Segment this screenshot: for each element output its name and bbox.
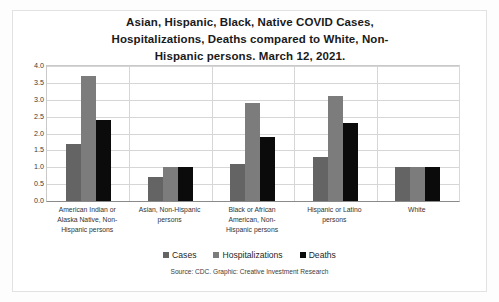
legend-swatch-icon xyxy=(213,252,219,258)
category-labels: American Indian orAlaska Native, Non-His… xyxy=(46,205,460,249)
legend-swatch-icon xyxy=(163,252,169,258)
category-label-line: Hispanic persons xyxy=(211,225,293,235)
y-axis-tick-label: 0.5 xyxy=(18,179,44,188)
chart-title-line-3: Hispanic persons. March 12, 2021. xyxy=(50,48,450,65)
category-label-line: persons xyxy=(293,215,375,225)
legend-item-hospitalizations[interactable]: Hospitalizations xyxy=(213,250,282,260)
category-label: American Indian orAlaska Native, Non-His… xyxy=(46,205,128,235)
category-label: White xyxy=(376,205,458,215)
y-axis-tick-label: 4.0 xyxy=(18,61,44,70)
category-label-line: Black or African xyxy=(211,205,293,215)
category-label: Asian, Non-Hispanicpersons xyxy=(128,205,210,225)
category-label-line: persons xyxy=(128,215,210,225)
legend-swatch-icon xyxy=(300,252,306,258)
y-axis-tick-label: 3.5 xyxy=(18,77,44,86)
legend-label: Deaths xyxy=(309,250,336,260)
legend-item-cases[interactable]: Cases xyxy=(163,250,196,260)
y-axis: 0.00.51.01.52.02.53.03.54.0 xyxy=(14,65,44,202)
category-label: Black or AfricanAmerican, Non-Hispanic p… xyxy=(211,205,293,235)
chart-title-line-2: Hospitalizations, Deaths compared to Whi… xyxy=(50,31,450,48)
y-axis-tick-label: 0.0 xyxy=(18,196,44,205)
chart-figure: Asian, Hispanic, Black, Native COVID Cas… xyxy=(0,0,499,302)
chart-legend: CasesHospitalizationsDeaths xyxy=(0,250,499,260)
bar-deaths xyxy=(96,120,111,201)
bar-deaths xyxy=(343,123,358,201)
plot-area xyxy=(46,65,460,202)
category-label: Hispanic or Latinopersons xyxy=(293,205,375,225)
bar-deaths xyxy=(178,167,193,201)
category-label-line: American, Non- xyxy=(211,215,293,225)
category-label-line: Asian, Non-Hispanic xyxy=(128,205,210,215)
bar-group xyxy=(129,66,211,201)
bar-group xyxy=(212,66,294,201)
bar-hospitalizations xyxy=(328,96,343,201)
legend-label: Hospitalizations xyxy=(222,250,282,260)
y-axis-tick-label: 1.5 xyxy=(18,145,44,154)
bar-hospitalizations xyxy=(245,103,260,201)
bar-cases xyxy=(66,144,81,201)
bar-hospitalizations xyxy=(81,76,96,201)
bar-deaths xyxy=(260,137,275,201)
chart-title: Asian, Hispanic, Black, Native COVID Cas… xyxy=(50,14,450,65)
bar-group xyxy=(377,66,459,201)
category-label-line: White xyxy=(376,205,458,215)
bar-group xyxy=(294,66,376,201)
bar-hospitalizations xyxy=(163,167,178,201)
bar-cases xyxy=(230,164,245,201)
source-note: Source: CDC. Graphic: Creative Investmen… xyxy=(0,268,499,275)
category-label-line: American Indian or xyxy=(46,205,128,215)
y-axis-tick-label: 2.5 xyxy=(18,111,44,120)
bar-cases xyxy=(313,157,328,201)
category-label-line: Hispanic or Latino xyxy=(293,205,375,215)
y-axis-tick-label: 1.0 xyxy=(18,162,44,171)
bar-deaths xyxy=(425,167,440,201)
y-axis-tick-label: 3.0 xyxy=(18,94,44,103)
category-label-line: Hispanic persons xyxy=(46,225,128,235)
category-label-line: Alaska Native, Non- xyxy=(46,215,128,225)
bar-group xyxy=(47,66,129,201)
legend-label: Cases xyxy=(172,250,196,260)
legend-item-deaths[interactable]: Deaths xyxy=(300,250,336,260)
chart-title-line-1: Asian, Hispanic, Black, Native COVID Cas… xyxy=(50,14,450,31)
y-axis-tick-label: 2.0 xyxy=(18,128,44,137)
bar-cases xyxy=(148,177,163,201)
bar-cases xyxy=(395,167,410,201)
bar-hospitalizations xyxy=(410,167,425,201)
